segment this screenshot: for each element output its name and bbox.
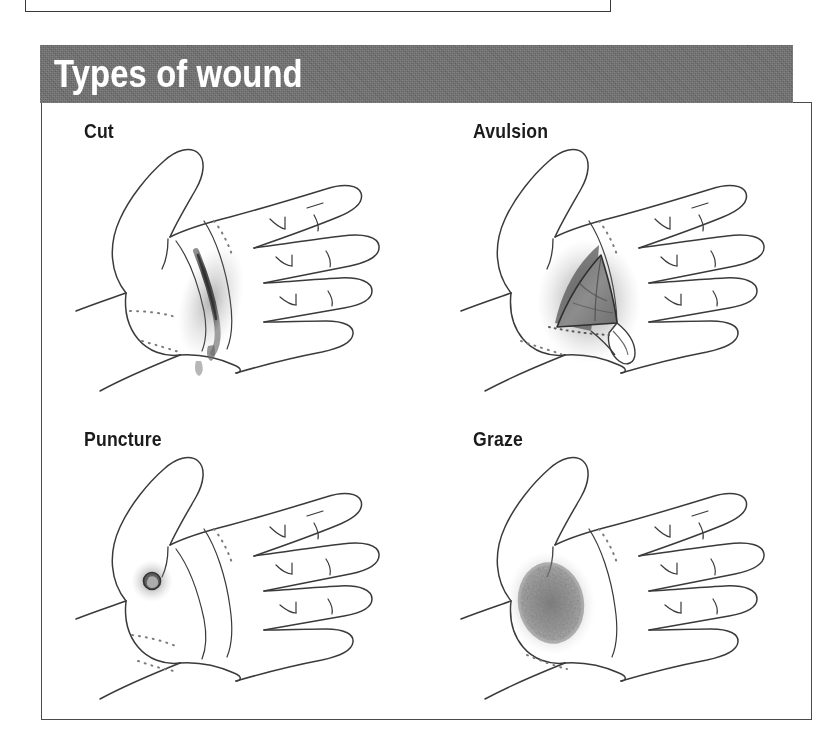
figure-header-bar: Types of wound xyxy=(40,45,793,103)
hand-illustration-graze xyxy=(449,413,809,713)
wound-label-avulsion: Avulsion xyxy=(473,119,548,143)
wound-item-avulsion: Avulsion xyxy=(427,103,812,411)
hand-illustration-avulsion xyxy=(449,105,809,405)
hand-illustration-cut xyxy=(64,105,424,405)
wound-label-cut: Cut xyxy=(84,119,114,143)
wound-item-cut: Cut xyxy=(42,103,427,411)
wound-item-puncture: Puncture xyxy=(42,411,427,719)
wound-mark-puncture xyxy=(131,560,173,602)
wound-grid: Cut xyxy=(42,103,811,719)
wound-mark-graze xyxy=(498,544,603,662)
top-partial-box xyxy=(25,0,611,12)
figure-panel: Cut xyxy=(41,102,812,720)
wound-item-graze: Graze xyxy=(427,411,812,719)
figure-title: Types of wound xyxy=(54,49,303,99)
wound-label-puncture: Puncture xyxy=(84,427,162,451)
types-of-wound-figure: Types of wound Cut xyxy=(40,45,812,721)
wound-label-graze: Graze xyxy=(473,427,523,451)
wound-mark-avulsion xyxy=(537,239,641,364)
hand-illustration-puncture xyxy=(64,413,424,713)
